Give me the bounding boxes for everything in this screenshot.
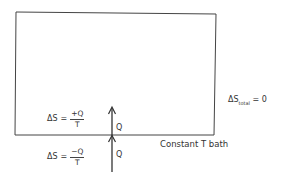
bath-entropy-fraction: −Q T bbox=[70, 148, 84, 166]
system-entropy-numerator: +Q bbox=[70, 110, 84, 120]
bath-entropy-denominator: T bbox=[75, 158, 80, 167]
bath-entropy-numerator: −Q bbox=[70, 148, 84, 158]
system-box bbox=[15, 12, 216, 135]
system-entropy-equation: ΔS = +Q T bbox=[47, 110, 84, 128]
diagram-canvas bbox=[0, 0, 284, 180]
bath-entropy-equation: ΔS = −Q T bbox=[47, 148, 84, 166]
bath-entropy-lhs: ΔS bbox=[47, 153, 58, 161]
system-entropy-lhs: ΔS bbox=[47, 115, 58, 123]
bath-label: Constant T bath bbox=[160, 140, 228, 149]
system-entropy-equals: = bbox=[61, 115, 68, 123]
bath-entropy-equals: = bbox=[61, 153, 68, 161]
total-entropy-rhs: = 0 bbox=[253, 95, 267, 104]
system-entropy-denominator: T bbox=[75, 120, 80, 129]
heat-label-upper: Q bbox=[116, 124, 122, 132]
total-entropy-equation: ΔStotal = 0 bbox=[228, 96, 267, 106]
total-entropy-lhs: ΔS bbox=[228, 95, 239, 104]
total-entropy-subscript: total bbox=[239, 100, 250, 106]
system-entropy-fraction: +Q T bbox=[70, 110, 84, 128]
heat-label-lower: Q bbox=[116, 151, 122, 159]
